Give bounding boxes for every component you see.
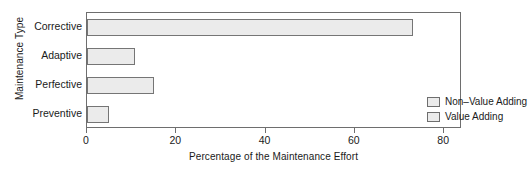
chart-legend: Non–Value Adding Value Adding [427,95,532,125]
legend-label-non-value-adding: Non–Value Adding [445,96,527,107]
y-axis-tick-labels: Corrective Adaptive Perfective Preventiv… [10,12,82,128]
y-tick-label-corrective: Corrective [10,21,82,32]
x-tick-mark-0 [86,128,87,133]
x-tick-mark-40 [265,128,266,133]
legend-label-value-adding: Value Adding [445,111,503,122]
legend-swatch-icon-value-adding [427,112,440,122]
bar-adaptive [87,48,135,65]
y-tick-label-preventive: Preventive [10,108,82,119]
bar-corrective [87,19,413,36]
legend-item-non-value-adding: Non–Value Adding [427,95,532,108]
x-tick-mark-80 [443,128,444,133]
x-tick-label-40: 40 [245,134,285,146]
x-tick-label-0: 0 [66,134,106,146]
plot-frame: Non–Value Adding Value Adding [86,12,461,128]
x-tick-label-80: 80 [423,134,463,146]
y-tick-label-perfective: Perfective [10,79,82,90]
x-tick-mark-20 [175,128,176,133]
x-axis-title: Percentage of the Maintenance Effort [86,151,461,162]
plot-area [87,13,460,127]
bar-preventive [87,106,109,123]
x-tick-mark-60 [354,128,355,133]
legend-item-value-adding: Value Adding [427,110,532,123]
x-tick-label-20: 20 [155,134,195,146]
x-axis-tick-labels: 0 20 40 60 80 [86,134,461,148]
x-tick-label-60: 60 [334,134,374,146]
bar-perfective [87,77,154,94]
legend-swatch-icon-non-value-adding [427,97,440,107]
y-tick-label-adaptive: Adaptive [10,50,82,61]
